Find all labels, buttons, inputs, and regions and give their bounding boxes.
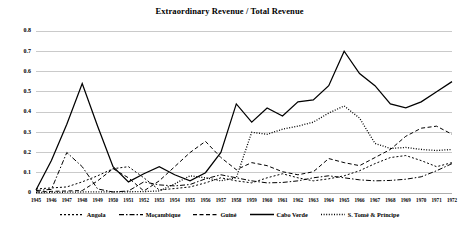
legend-swatch-icon bbox=[250, 211, 274, 218]
legend-item[interactable]: Angola bbox=[60, 211, 106, 218]
y-axis-tick-label: 0 bbox=[28, 189, 31, 195]
x-axis-tick-label: 1956 bbox=[200, 197, 211, 203]
x-axis-tick-label: 1968 bbox=[385, 197, 396, 203]
x-axis-tick-label: 1955 bbox=[185, 197, 196, 203]
y-axis-tick-label: 0.5 bbox=[24, 88, 32, 94]
chart-container: Extraordinary Revenue / Total Revenue 00… bbox=[0, 0, 459, 236]
x-axis-tick-label: 1971 bbox=[431, 197, 442, 203]
x-axis-tick-label: 1945 bbox=[31, 197, 42, 203]
x-axis-tick-label: 1967 bbox=[370, 197, 381, 203]
legend-label: Cabo Verde bbox=[277, 211, 308, 218]
x-axis-tick-label: 1969 bbox=[401, 197, 412, 203]
x-axis-tick-label: 1962 bbox=[293, 197, 304, 203]
legend-swatch-icon bbox=[60, 211, 84, 218]
legend-item[interactable]: Moçambique bbox=[119, 211, 181, 218]
x-axis-tick-label: 1959 bbox=[247, 197, 258, 203]
y-axis-tick-label: 0.1 bbox=[24, 169, 32, 175]
x-axis-tick-label: 1966 bbox=[354, 197, 365, 203]
x-axis-tick-label: 1950 bbox=[108, 197, 119, 203]
y-axis-tick-label: 0.8 bbox=[24, 27, 32, 33]
legend-item[interactable]: Cabo Verde bbox=[250, 211, 308, 218]
chart-legend: AngolaMoçambiqueGuinéCabo VerdeS. Tomé &… bbox=[0, 211, 459, 218]
legend-label: Guiné bbox=[220, 211, 236, 218]
x-axis-tick-label: 1947 bbox=[62, 197, 73, 203]
y-axis-tick-label: 0.7 bbox=[24, 48, 32, 54]
data-series-group bbox=[36, 51, 452, 192]
y-axis-tick-label: 0.2 bbox=[24, 149, 32, 155]
y-axis-tick-label: 0.3 bbox=[24, 129, 32, 135]
x-axis-tick-label: 1972 bbox=[447, 197, 458, 203]
y-axis-tick-label: 0.4 bbox=[24, 108, 32, 114]
legend-swatch-icon bbox=[321, 211, 345, 218]
legend-label: Angola bbox=[87, 211, 106, 218]
x-axis-tick-label: 1958 bbox=[231, 197, 242, 203]
legend-item[interactable]: Guiné bbox=[193, 211, 236, 218]
x-axis-tick-label: 1952 bbox=[139, 197, 150, 203]
y-axis-tick-labels: 00.10.20.30.40.50.60.70.8 bbox=[24, 27, 32, 195]
legend-swatch-icon bbox=[193, 211, 217, 218]
x-axis-tick-label: 1960 bbox=[262, 197, 273, 203]
legend-item[interactable]: S. Tomé & Príncipe bbox=[321, 211, 400, 218]
series-line bbox=[36, 51, 452, 190]
legend-label: S. Tomé & Príncipe bbox=[348, 211, 400, 218]
y-axis-tick-label: 0.6 bbox=[24, 68, 32, 74]
x-axis-tick-label: 1957 bbox=[216, 197, 227, 203]
series-line bbox=[36, 153, 452, 192]
x-axis-tick-label: 1970 bbox=[416, 197, 427, 203]
legend-label: Moçambique bbox=[146, 211, 181, 218]
chart-plot-area: 00.10.20.30.40.50.60.70.8 19451946194719… bbox=[0, 0, 459, 236]
x-axis-tick-label: 1954 bbox=[170, 197, 181, 203]
x-axis-tick-label: 1963 bbox=[308, 197, 319, 203]
x-axis-tick-label: 1948 bbox=[77, 197, 88, 203]
x-axis-tick-label: 1964 bbox=[324, 197, 335, 203]
x-axis-tick-label: 1953 bbox=[154, 197, 165, 203]
x-axis-tick-label: 1946 bbox=[46, 197, 57, 203]
x-axis-tick-label: 1965 bbox=[339, 197, 350, 203]
x-axis-tick-label: 1949 bbox=[93, 197, 104, 203]
legend-swatch-icon bbox=[119, 211, 143, 218]
x-axis-tick-label: 1951 bbox=[123, 197, 134, 203]
x-axis-tick-labels: 1945194619471948194919501951195219531954… bbox=[31, 197, 458, 203]
grid-lines bbox=[36, 31, 452, 193]
x-axis-tick-label: 1961 bbox=[277, 197, 288, 203]
